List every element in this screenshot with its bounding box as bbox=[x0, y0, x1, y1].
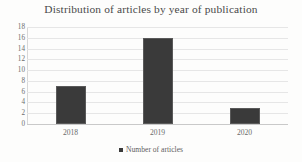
gridline bbox=[27, 124, 288, 125]
gridline bbox=[27, 27, 288, 28]
y-axis-tick-label: 10 bbox=[3, 66, 25, 74]
x-axis-tick-label: 2020 bbox=[237, 128, 252, 137]
chart-legend: Number of articles bbox=[0, 145, 302, 154]
y-axis-tick-label: 16 bbox=[3, 34, 25, 42]
bar bbox=[143, 38, 173, 124]
y-axis-tick-labels: 024681012141618 bbox=[0, 27, 25, 124]
x-axis-tick-label: 2018 bbox=[63, 128, 78, 137]
bar bbox=[56, 86, 86, 124]
y-axis-tick-label: 18 bbox=[3, 23, 25, 31]
y-axis-tick-label: 8 bbox=[3, 77, 25, 85]
y-axis-tick-label: 0 bbox=[3, 120, 25, 128]
chart-title: Distribution of articles by year of publ… bbox=[0, 3, 302, 15]
y-axis-tick-label: 2 bbox=[3, 109, 25, 117]
y-axis-tick-label: 6 bbox=[3, 88, 25, 96]
chart-figure: Distribution of articles by year of publ… bbox=[0, 0, 302, 162]
legend-swatch-icon bbox=[119, 148, 123, 152]
x-axis-tick-labels: 201820192020 bbox=[27, 128, 288, 140]
y-axis-tick-label: 12 bbox=[3, 55, 25, 63]
y-axis-tick-label: 14 bbox=[3, 45, 25, 53]
bar bbox=[230, 108, 260, 124]
y-axis-tick-label: 4 bbox=[3, 98, 25, 106]
legend-label: Number of articles bbox=[126, 145, 183, 154]
plot-area bbox=[27, 27, 288, 124]
x-axis-tick-label: 2019 bbox=[150, 128, 165, 137]
